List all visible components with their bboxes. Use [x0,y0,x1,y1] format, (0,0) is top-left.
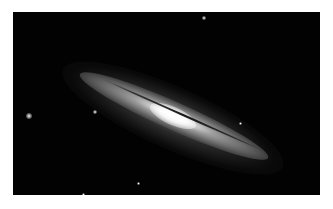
star [239,122,242,125]
star [26,113,32,119]
galaxy-photo [13,12,320,195]
star [82,193,85,195]
star [93,110,97,114]
star [137,182,140,185]
star [202,16,206,20]
